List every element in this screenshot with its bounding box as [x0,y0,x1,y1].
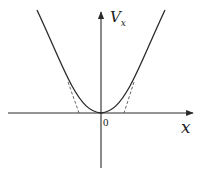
origin-label: 0 [103,116,109,128]
y-axis-label: Vx [110,8,126,28]
left-dashed-asymptote [68,82,79,113]
potential-plot: 0 Vx x [0,0,204,176]
x-axis-label: x [181,117,191,137]
